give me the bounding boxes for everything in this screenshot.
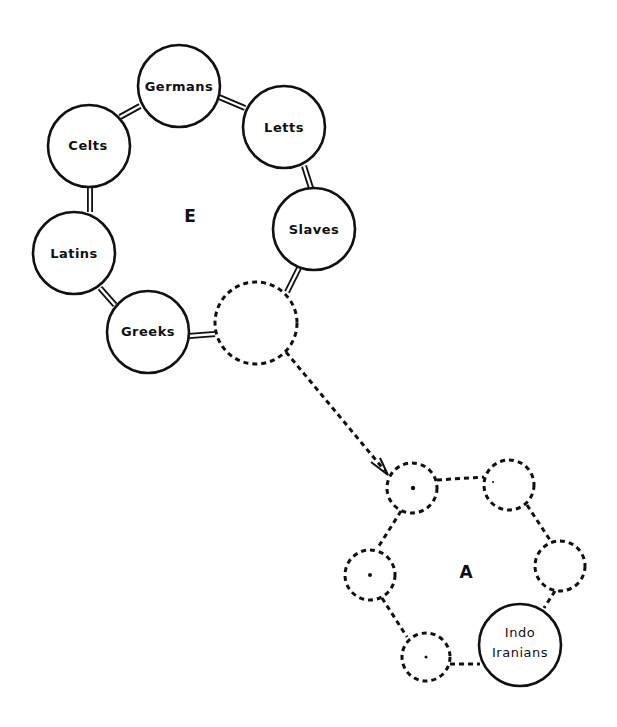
node-germans[interactable]: Germans: [138, 45, 220, 127]
group-label-e: E: [184, 206, 196, 226]
node-a-right[interactable]: [535, 541, 585, 591]
migration-diagram: Germans Letts Slaves Greeks Latins Celts…: [0, 0, 617, 727]
node-celts[interactable]: Celts: [48, 105, 130, 187]
node-a-top-right[interactable]: [484, 460, 534, 510]
node-greeks[interactable]: Greeks: [107, 291, 189, 373]
node-unnamed-e[interactable]: [215, 282, 297, 364]
migration-arrow: [286, 352, 388, 475]
node-latins[interactable]: Latins: [33, 212, 115, 294]
node-slaves[interactable]: Slaves: [273, 188, 355, 270]
node-a-top-left[interactable]: [387, 463, 437, 513]
node-label: Slaves: [289, 222, 340, 237]
node-a-bottom[interactable]: [402, 633, 450, 681]
group-e: Germans Letts Slaves Greeks Latins Celts…: [33, 45, 355, 373]
node-indo-iranians[interactable]: Indo Iranians: [479, 604, 561, 686]
node-label: Celts: [68, 138, 107, 153]
node-label-line-2: Iranians: [492, 645, 548, 660]
node-label: Latins: [50, 246, 98, 261]
node-a-left[interactable]: [345, 550, 395, 600]
node-label: Letts: [264, 120, 304, 135]
node-label: Germans: [145, 79, 214, 94]
node-label-line-1: Indo: [505, 625, 535, 640]
node-label: Greeks: [121, 324, 175, 339]
group-label-a: A: [459, 562, 473, 582]
group-a: Indo Iranians A: [345, 460, 585, 686]
node-letts[interactable]: Letts: [243, 86, 325, 168]
